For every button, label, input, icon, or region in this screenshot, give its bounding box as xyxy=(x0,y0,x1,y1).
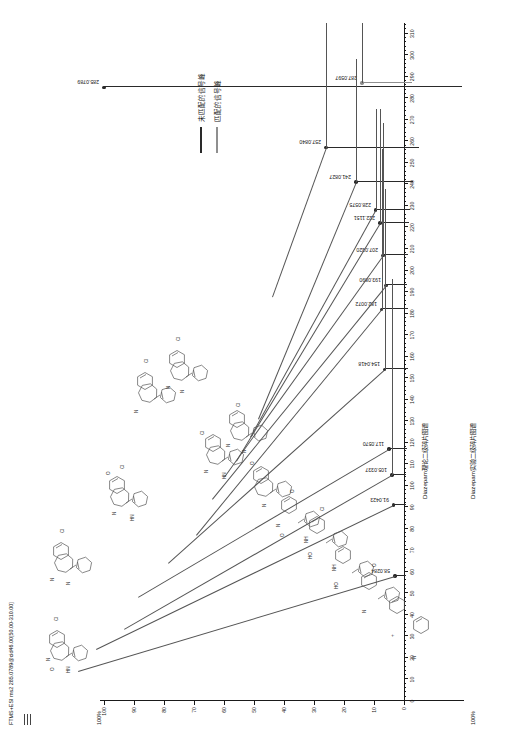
x-axis-minor-tick xyxy=(404,188,406,189)
structure-58: N xyxy=(404,601,456,663)
x-axis-minor-tick xyxy=(404,214,406,215)
x-axis-major-tick xyxy=(404,420,408,421)
structure-285: ONHNCl xyxy=(40,615,92,677)
x-axis-minor-tick xyxy=(404,425,406,426)
x-axis-minor-tick xyxy=(404,218,406,219)
x-axis-minor-tick xyxy=(404,360,406,361)
x-axis-tick-label: 310 xyxy=(409,25,415,43)
x-axis-minor-tick xyxy=(404,330,406,331)
x-axis-tick-label: 180 xyxy=(409,305,415,323)
x-axis-minor-tick xyxy=(404,300,406,301)
y-axis-tick-label: 30 xyxy=(311,707,317,727)
x-axis-minor-tick xyxy=(404,386,406,387)
x-axis-minor-tick xyxy=(404,502,406,503)
svg-text:N: N xyxy=(166,386,171,389)
spectrum-peak-top xyxy=(104,86,404,87)
x-axis-minor-tick xyxy=(404,93,406,94)
svg-text:N: N xyxy=(134,410,139,413)
svg-text:N: N xyxy=(362,610,367,613)
svg-text:O: O xyxy=(372,563,377,567)
peak-mz-label: 154.0418 xyxy=(358,361,380,367)
svg-text:N: N xyxy=(66,582,71,585)
x-axis-minor-tick xyxy=(404,364,406,365)
x-axis-minor-tick xyxy=(404,536,406,537)
x-axis-minor-tick xyxy=(404,545,406,546)
x-axis-minor-tick xyxy=(404,171,406,172)
x-axis-minor-tick xyxy=(404,459,406,460)
peak-leader-line xyxy=(392,279,393,475)
y-axis-tick-label: 0 xyxy=(401,707,407,727)
x-axis-minor-tick xyxy=(404,72,406,73)
peak-leader-line xyxy=(385,189,386,369)
x-axis-minor-tick xyxy=(404,80,406,81)
x-axis-minor-tick xyxy=(404,89,406,90)
x-axis-tick-label: 130 xyxy=(409,412,415,430)
x-axis-minor-tick xyxy=(404,493,406,494)
y-axis-tick-label: 100 xyxy=(101,707,107,727)
x-axis-minor-tick xyxy=(404,196,406,197)
y-axis-tick xyxy=(314,701,315,705)
x-axis-tick-label: 250 xyxy=(409,154,415,172)
spectrum-peak-bottom xyxy=(404,308,408,309)
y-axis-tick xyxy=(284,701,285,705)
x-axis-major-tick xyxy=(404,54,408,55)
y-axis-tick-label: 20 xyxy=(341,707,347,727)
x-axis-tick-label: 270 xyxy=(409,111,415,129)
svg-text:O: O xyxy=(50,667,55,671)
svg-text:Cl: Cl xyxy=(236,403,241,407)
x-axis-minor-tick xyxy=(404,347,406,348)
x-axis-tick-label: 120 xyxy=(409,434,415,452)
x-axis-minor-tick xyxy=(404,429,406,430)
structure-228: NNCl xyxy=(160,335,212,397)
y-axis-tick-label: 70 xyxy=(191,707,197,727)
svg-text:Cl: Cl xyxy=(144,359,149,363)
legend-swatch-matched xyxy=(216,127,217,153)
y-axis-tick-label: 10 xyxy=(371,707,377,727)
svg-text:HO: HO xyxy=(334,582,339,589)
x-axis-minor-tick xyxy=(404,67,406,68)
x-axis-minor-tick xyxy=(404,102,406,103)
x-axis-minor-tick xyxy=(404,407,406,408)
x-axis-minor-tick xyxy=(404,519,406,520)
svg-text:N: N xyxy=(276,524,281,527)
peak-mz-label: 105.0337 xyxy=(365,467,387,473)
x-axis-minor-tick xyxy=(404,175,406,176)
x-axis-minor-tick xyxy=(404,132,406,133)
x-axis-minor-tick xyxy=(404,149,406,150)
x-axis-minor-tick xyxy=(404,446,406,447)
spectrum-peak-bottom xyxy=(404,82,412,83)
x-axis-minor-tick xyxy=(404,282,406,283)
x-axis-major-tick xyxy=(404,571,408,572)
x-axis-tick-label: 220 xyxy=(409,218,415,236)
x-axis-minor-tick xyxy=(404,304,406,305)
x-axis-major-tick xyxy=(404,377,408,378)
x-axis-tick-label: 230 xyxy=(409,197,415,215)
x-axis-minor-tick xyxy=(404,24,406,25)
x-axis-minor-tick xyxy=(404,231,406,232)
x-axis-minor-tick xyxy=(404,326,406,327)
spectrum-peak-bottom xyxy=(404,474,406,475)
svg-text:HN: HN xyxy=(222,472,227,479)
x-axis-minor-tick xyxy=(404,244,406,245)
peak-leader-line xyxy=(356,59,357,182)
x-axis-minor-tick xyxy=(404,567,406,568)
peak-leader-line xyxy=(362,23,363,83)
x-axis-tick-label: 140 xyxy=(409,391,415,409)
spectrum-peak-top xyxy=(394,504,405,505)
svg-text:+: + xyxy=(390,634,395,637)
x-axis-minor-tick xyxy=(404,472,406,473)
x-axis-minor-tick xyxy=(404,476,406,477)
x-axis-major-tick xyxy=(404,291,408,292)
spectrum-peak-bottom xyxy=(404,448,407,449)
legend-item-matched: 匹配的信号峰 xyxy=(212,73,222,153)
y-axis-tick xyxy=(164,701,165,705)
x-axis-minor-tick xyxy=(404,511,406,512)
svg-text:Cl: Cl xyxy=(120,465,125,469)
x-axis-major-tick xyxy=(404,119,408,120)
x-axis-minor-tick xyxy=(404,46,406,47)
y-axis-tick xyxy=(404,701,405,705)
svg-text:Cl: Cl xyxy=(54,617,59,621)
x-axis-minor-tick xyxy=(404,123,406,124)
x-axis-minor-tick xyxy=(404,455,406,456)
x-axis-minor-tick xyxy=(404,696,406,697)
